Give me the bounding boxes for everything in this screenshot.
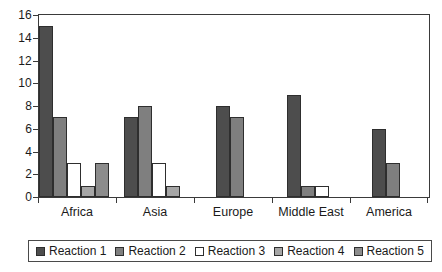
bar xyxy=(67,163,81,197)
bar xyxy=(124,117,138,197)
y-axis-tick-mark xyxy=(33,129,38,130)
legend-item: Reaction 1 xyxy=(36,245,106,257)
y-axis-tick-label: 14 xyxy=(18,32,32,44)
legend-swatch-icon xyxy=(195,247,204,256)
legend-label: Reaction 5 xyxy=(367,245,424,257)
bar xyxy=(138,106,152,197)
bar xyxy=(152,163,166,197)
legend-swatch-icon xyxy=(354,247,363,256)
bar xyxy=(166,186,180,197)
y-axis-tick-label: 12 xyxy=(18,55,32,67)
legend-label: Reaction 3 xyxy=(208,245,265,257)
x-axis-category-label: Middle East xyxy=(278,205,343,220)
y-axis-tick-label: 4 xyxy=(25,146,32,158)
x-axis-category-labels: AfricaAsiaEuropeMiddle EastAmerica xyxy=(38,205,430,225)
y-axis-tick-mark xyxy=(33,15,38,16)
x-axis-tick-mark xyxy=(427,198,428,203)
y-axis-tick-label: 6 xyxy=(25,123,32,135)
y-axis-tick-marks xyxy=(33,14,38,198)
y-axis-tick-label: 16 xyxy=(18,9,32,21)
chart-legend: Reaction 1Reaction 2Reaction 3Reaction 4… xyxy=(28,240,432,262)
y-axis-tick-mark xyxy=(33,61,38,62)
y-axis-tick-mark xyxy=(33,152,38,153)
x-axis-tick-mark xyxy=(116,198,117,203)
x-axis-category-label: Asia xyxy=(143,205,167,220)
bar xyxy=(230,117,244,197)
x-axis-tick-mark xyxy=(194,198,195,203)
y-axis-tick-label: 10 xyxy=(18,77,32,89)
legend-swatch-icon xyxy=(36,247,45,256)
legend-label: Reaction 2 xyxy=(128,245,185,257)
legend-swatch-icon xyxy=(115,247,124,256)
x-axis-category-label: Africa xyxy=(61,205,93,220)
legend-swatch-icon xyxy=(274,247,283,256)
legend-label: Reaction 4 xyxy=(287,245,344,257)
bar xyxy=(81,186,95,197)
y-axis-tick-mark xyxy=(33,38,38,39)
x-axis-tick-mark xyxy=(350,198,351,203)
bar xyxy=(386,163,400,197)
x-axis-category-label: America xyxy=(366,205,412,220)
bars-layer xyxy=(39,15,429,197)
bar xyxy=(95,163,109,197)
y-axis-tick-mark xyxy=(33,174,38,175)
x-axis-category-label: Europe xyxy=(213,205,253,220)
y-axis-tick-mark xyxy=(33,106,38,107)
x-axis-tick-marks xyxy=(38,198,430,203)
legend-item: Reaction 3 xyxy=(195,245,265,257)
bar xyxy=(287,95,301,197)
y-axis-labels: 0246810121416 xyxy=(0,14,32,198)
bar xyxy=(372,129,386,197)
bar xyxy=(315,186,329,197)
legend-item: Reaction 4 xyxy=(274,245,344,257)
x-axis-tick-mark xyxy=(38,198,39,203)
legend-item: Reaction 2 xyxy=(115,245,185,257)
bar xyxy=(39,26,53,197)
y-axis-tick-mark xyxy=(33,83,38,84)
bar xyxy=(53,117,67,197)
y-axis-tick-label: 8 xyxy=(25,100,32,112)
bar xyxy=(216,106,230,197)
bar-chart: 0246810121416 AfricaAsiaEuropeMiddle Eas… xyxy=(0,0,442,272)
legend-item: Reaction 5 xyxy=(354,245,424,257)
bar xyxy=(301,186,315,197)
legend-label: Reaction 1 xyxy=(49,245,106,257)
y-axis-tick-label: 2 xyxy=(25,168,32,180)
x-axis-tick-mark xyxy=(272,198,273,203)
y-axis-tick-label: 0 xyxy=(25,191,32,203)
